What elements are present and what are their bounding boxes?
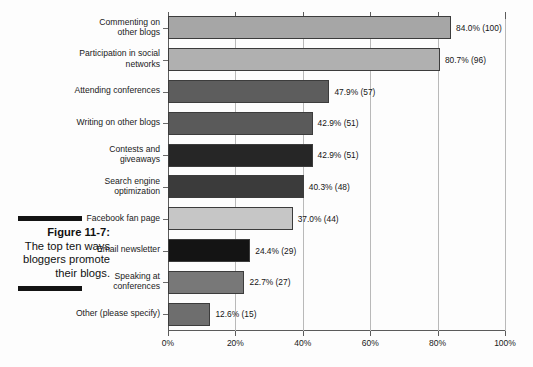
x-tick-label: 0% — [162, 338, 174, 348]
bar — [168, 239, 250, 262]
bar — [168, 207, 293, 230]
bar-value-label: 37.0% (44) — [298, 215, 339, 223]
category-tick — [163, 155, 168, 156]
category-label: Attending conferences — [0, 85, 160, 95]
bar-value-label: 42.9% (51) — [318, 119, 359, 127]
gridline-100pct — [505, 12, 506, 331]
bar — [168, 80, 329, 103]
category-label: Speaking at conferences — [0, 271, 160, 292]
bar — [168, 303, 210, 326]
x-tick-mark — [168, 331, 169, 336]
x-tick-mark — [303, 331, 304, 336]
category-tick — [163, 28, 168, 29]
bar-value-label: 22.7% (27) — [249, 278, 290, 286]
category-label: Contests and giveaways — [0, 144, 160, 165]
bar — [168, 48, 440, 71]
bar-chart: 0%20%40%60%80%100% 84.0% (100)80.7% (96)… — [0, 0, 533, 367]
category-tick — [163, 219, 168, 220]
bar-value-label: 42.9% (51) — [318, 151, 359, 159]
category-tick — [163, 187, 168, 188]
x-tick-label: 40% — [294, 338, 311, 348]
category-tick — [163, 60, 168, 61]
category-label: Facebook fan page — [0, 213, 160, 223]
bar-value-label: 12.6% (15) — [215, 310, 256, 318]
category-tick — [163, 314, 168, 315]
bar — [168, 112, 313, 135]
bar — [168, 144, 313, 167]
bar — [168, 16, 451, 39]
category-tick — [163, 251, 168, 252]
bar-value-label: 80.7% (96) — [445, 56, 486, 64]
x-tick-mark — [505, 331, 506, 336]
x-tick-mark — [235, 331, 236, 336]
bar-value-label: 84.0% (100) — [456, 24, 502, 32]
bar-value-label: 40.3% (48) — [309, 183, 350, 191]
category-tick — [163, 92, 168, 93]
category-label: Other (please specify) — [0, 308, 160, 318]
category-label: Email newsletter — [0, 244, 160, 254]
x-tick-mark — [370, 331, 371, 336]
bar-value-label: 47.9% (57) — [334, 88, 375, 96]
bar-value-label: 24.4% (29) — [255, 247, 296, 255]
x-tick-label: 20% — [227, 338, 244, 348]
category-label: Writing on other blogs — [0, 117, 160, 127]
category-label: Participation in social networks — [0, 48, 160, 69]
figure-container: Figure 11-7: The top ten ways bloggers p… — [0, 0, 533, 367]
bar — [168, 271, 244, 294]
category-tick — [163, 282, 168, 283]
x-tick-mark — [438, 331, 439, 336]
x-axis-line — [168, 330, 506, 331]
x-tick-label: 100% — [494, 338, 516, 348]
x-tick-label: 80% — [429, 338, 446, 348]
category-label: Commenting on other blogs — [0, 17, 160, 38]
bar — [168, 175, 304, 198]
x-tick-top — [505, 12, 506, 19]
category-tick — [163, 123, 168, 124]
category-label: Search engine optimization — [0, 176, 160, 197]
x-tick-label: 60% — [362, 338, 379, 348]
